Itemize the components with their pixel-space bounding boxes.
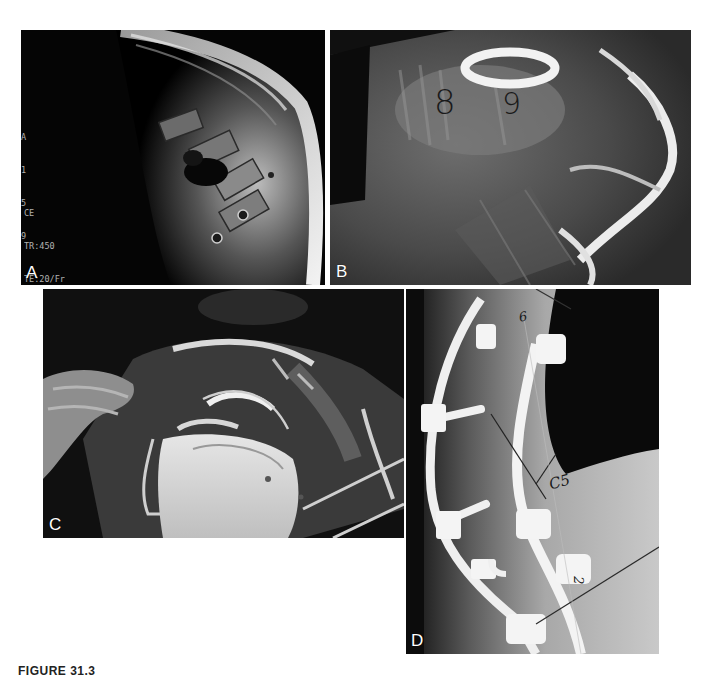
ct-annotation-9: 9 [502,86,521,121]
figure-panel-a: A 1 5 9 CE TR:450 TE:20/Fr EC:1/1 4.9kHz… [21,30,325,285]
xray-annotation-2: 2 [571,576,586,584]
figure-panel-c: C [43,289,404,538]
intraoperative-photo [43,289,404,538]
figure-panel-d: 6 C5 2 D [406,289,659,654]
figure-caption: FIGURE 31.3 [18,664,96,675]
figure-panel-b: 8 9 B [330,30,691,285]
panel-label-b: B [336,263,347,280]
lateral-radiograph-image [406,289,659,654]
ct-reconstruction-image [330,30,691,285]
panel-label-d: D [411,632,423,649]
ct-annotation-8: 8 [434,82,456,122]
panel-label-a: A [26,264,37,281]
panel-label-c: C [49,516,61,533]
